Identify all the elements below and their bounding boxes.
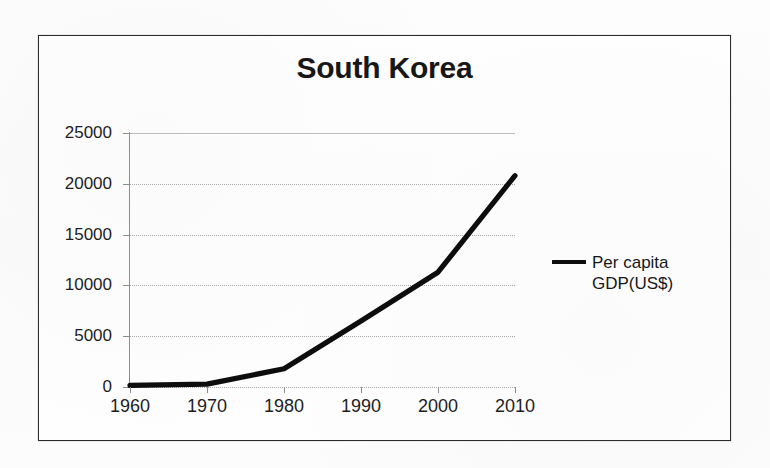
x-tick-mark — [284, 387, 285, 393]
y-tick-mark — [123, 235, 130, 236]
x-tick-label: 1980 — [249, 397, 319, 415]
x-tick-mark — [207, 387, 208, 393]
x-tick-mark — [361, 387, 362, 393]
chart-title: South Korea — [38, 52, 731, 84]
legend-line-swatch — [552, 260, 586, 264]
y-tick-label: 25000 — [20, 124, 112, 141]
plot-area — [130, 133, 515, 387]
y-tick-label: 15000 — [20, 226, 112, 243]
x-tick-mark — [515, 387, 516, 393]
gridline — [130, 387, 515, 388]
x-tick-label: 1990 — [326, 397, 396, 415]
chart-legend: Per capita GDP(US$) — [552, 252, 722, 295]
series-line-per-capita-gdp — [130, 133, 515, 387]
y-tick-label: 0 — [20, 378, 112, 395]
y-tick-label: 5000 — [20, 327, 112, 344]
x-tick-mark — [438, 387, 439, 393]
y-tick-mark — [123, 285, 130, 286]
x-tick-mark — [130, 387, 131, 393]
y-tick-label: 20000 — [20, 175, 112, 192]
y-tick-mark — [123, 133, 130, 134]
x-tick-label: 1960 — [95, 397, 165, 415]
x-tick-label: 1970 — [172, 397, 242, 415]
x-tick-label: 2000 — [403, 397, 473, 415]
x-tick-label: 2010 — [480, 397, 550, 415]
y-tick-mark — [123, 336, 130, 337]
y-tick-label: 10000 — [20, 276, 112, 293]
legend-label-per-capita-gdp: Per capita GDP(US$) — [592, 252, 673, 295]
y-tick-mark — [123, 184, 130, 185]
